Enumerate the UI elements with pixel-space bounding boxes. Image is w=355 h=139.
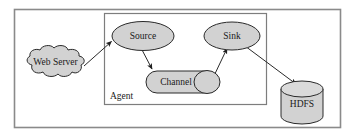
flume-architecture-diagram: Web Server Source Channel Sink HDFS Agen… [0, 0, 355, 139]
node-hdfs[interactable]: HDFS [281, 81, 323, 124]
hdfs-label: HDFS [290, 99, 314, 109]
edge-sink-to-hdfs [245, 46, 296, 84]
sink-label: Sink [223, 31, 241, 41]
hdfs-cylinder-top [281, 81, 323, 97]
agent-label: Agent [110, 91, 134, 101]
diagram-canvas: Web Server Source Channel Sink HDFS Agen… [0, 0, 355, 139]
channel-cap-shape [194, 71, 220, 94]
source-label: Source [130, 31, 156, 41]
node-webserver[interactable]: Web Server [27, 46, 84, 77]
node-channel[interactable]: Channel [146, 71, 220, 94]
node-source[interactable]: Source [112, 22, 174, 51]
edge-webserver-to-source [84, 42, 112, 67]
webserver-label: Web Server [33, 57, 78, 67]
node-sink[interactable]: Sink [204, 22, 260, 50]
channel-label: Channel [160, 77, 192, 87]
